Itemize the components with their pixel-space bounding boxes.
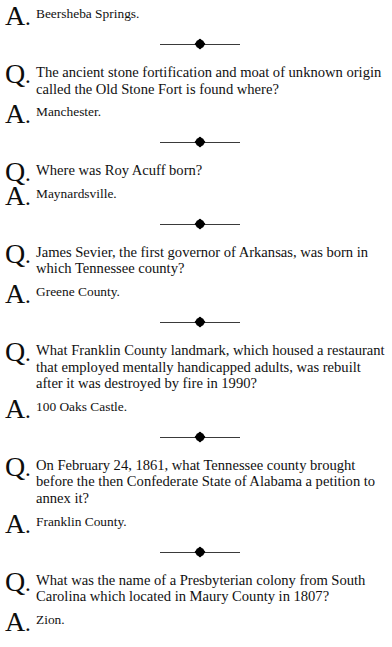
spacer	[0, 415, 392, 425]
question-marker: Q.	[5, 240, 37, 268]
question-text: Where was Roy Acuff born?	[36, 162, 392, 179]
divider-diamond-icon	[194, 38, 205, 49]
spacer	[0, 530, 392, 540]
question-marker: Q.	[5, 568, 37, 596]
question-text: The ancient stone fortification and moat…	[36, 64, 392, 97]
question-entry: Q. On February 24, 1861, what Tennessee …	[0, 457, 392, 507]
question-entry: Q. The ancient stone fortification and m…	[0, 64, 392, 97]
spacer	[0, 22, 392, 32]
diamond-rule-divider	[0, 540, 392, 566]
divider-diamond-icon	[194, 431, 205, 442]
answer-entry: A. Maynardsville.	[0, 186, 392, 202]
answer-text: Beersheba Springs.	[36, 6, 392, 22]
answer-text: Franklin County.	[36, 514, 392, 530]
answer-marker: A.	[5, 100, 37, 128]
question-marker: Q.	[5, 453, 37, 481]
answer-marker: A.	[5, 510, 37, 538]
question-marker: Q.	[5, 60, 37, 88]
question-text: What Franklin County landmark, which hou…	[36, 342, 392, 392]
document-page: A. Beersheba Springs. Q. The ancient sto…	[0, 6, 392, 647]
answer-marker: A.	[5, 395, 37, 423]
spacer	[0, 202, 392, 212]
divider-diamond-icon	[194, 316, 205, 327]
divider-diamond-icon	[194, 137, 205, 148]
answer-marker: A.	[5, 2, 37, 30]
question-entry: Q. James Sevier, the first governor of A…	[0, 244, 392, 277]
answer-text: 100 Oaks Castle.	[36, 399, 392, 415]
divider-diamond-icon	[194, 546, 205, 557]
answer-marker: A.	[5, 280, 37, 308]
question-entry: Q. Where was Roy Acuff born?	[0, 162, 392, 179]
question-text: On February 24, 1861, what Tennessee cou…	[36, 457, 392, 507]
answer-text: Maynardsville.	[36, 186, 392, 202]
spacer	[0, 120, 392, 130]
answer-entry: A. Greene County.	[0, 284, 392, 300]
answer-entry: A. Beersheba Springs.	[0, 6, 392, 22]
diamond-rule-divider	[0, 32, 392, 58]
answer-entry: A. Manchester.	[0, 104, 392, 120]
answer-marker: A.	[5, 608, 37, 636]
question-text: James Sevier, the first governor of Arka…	[36, 244, 392, 277]
spacer	[0, 300, 392, 310]
answer-text: Greene County.	[36, 284, 392, 300]
answer-entry: A. Zion.	[0, 612, 392, 628]
question-text: What was the name of a Presbyterian colo…	[36, 572, 392, 605]
diamond-rule-divider	[0, 425, 392, 451]
answer-text: Zion.	[36, 612, 392, 628]
question-entry: Q. What Franklin County landmark, which …	[0, 342, 392, 392]
diamond-rule-divider	[0, 130, 392, 156]
answer-marker: A.	[5, 182, 37, 210]
divider-diamond-icon	[194, 218, 205, 229]
answer-entry: A. Franklin County.	[0, 514, 392, 530]
answer-text: Manchester.	[36, 104, 392, 120]
question-marker: Q.	[5, 338, 37, 366]
answer-entry: A. 100 Oaks Castle.	[0, 399, 392, 415]
question-entry: Q. What was the name of a Presbyterian c…	[0, 572, 392, 605]
diamond-rule-divider	[0, 212, 392, 238]
diamond-rule-divider	[0, 310, 392, 336]
